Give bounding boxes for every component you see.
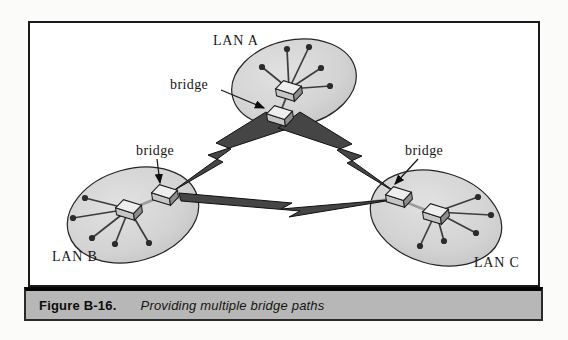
figure-number: Figure B-16. <box>39 298 117 313</box>
bridge-label-lan-a: bridge <box>170 77 208 92</box>
figure-caption-text: Providing multiple bridge paths <box>141 298 325 313</box>
figure-page: LAN A <box>0 0 568 340</box>
station-dot <box>284 46 290 52</box>
lan-a-label: LAN A <box>213 33 259 48</box>
station-dot <box>417 243 423 249</box>
station-dot <box>259 64 265 70</box>
lan-b-label: LAN B <box>52 249 98 264</box>
lightning-link-b-c <box>179 193 398 217</box>
lightning-link-a-c <box>278 112 398 194</box>
bridge-label-lan-b: bridge <box>136 143 174 158</box>
station-dot <box>306 44 312 50</box>
bridge-label-lan-c: bridge <box>405 143 443 158</box>
station-dot <box>146 240 152 246</box>
station-dot <box>89 235 95 241</box>
station-dot <box>112 241 118 247</box>
station-dot <box>70 215 76 221</box>
station-dot <box>441 238 447 244</box>
station-dot <box>82 195 88 201</box>
figure-caption-bar: Figure B-16. Providing multiple bridge p… <box>24 287 543 321</box>
lan-c-label: LAN C <box>474 255 520 270</box>
lightning-links <box>166 112 400 217</box>
lightning-link-a-b <box>173 112 290 191</box>
station-dot <box>475 194 481 200</box>
station-dot <box>327 83 333 89</box>
station-dot <box>488 212 494 218</box>
station-dot <box>318 65 324 71</box>
station-dot <box>473 230 479 236</box>
